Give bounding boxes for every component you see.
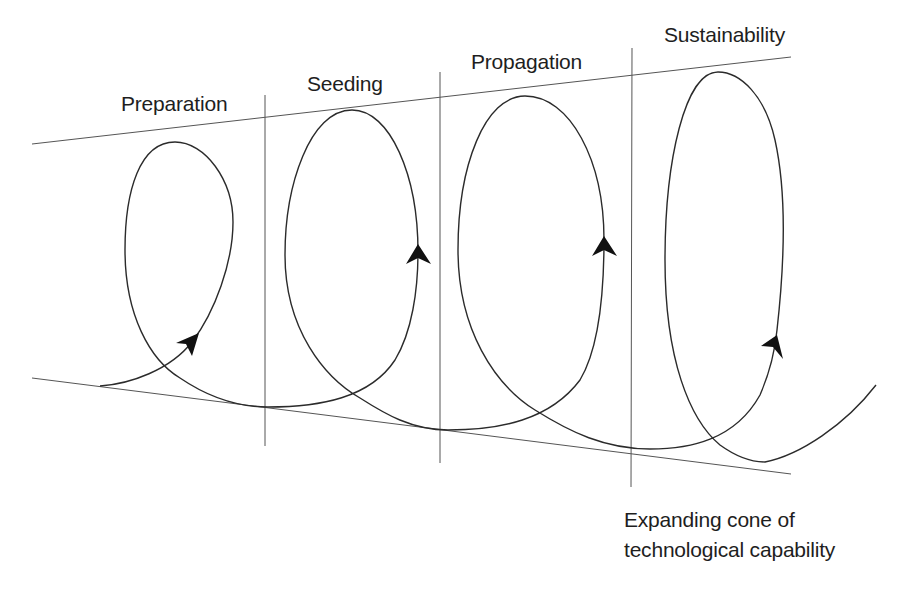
phase-label-seeding: Seeding — [307, 73, 383, 94]
phase-label-sustainability: Sustainability — [664, 24, 785, 45]
caption-line-2: technological capability — [624, 535, 835, 565]
phase-divider-3 — [631, 48, 632, 487]
spiral-path — [100, 72, 876, 462]
phase-label-preparation: Preparation — [121, 93, 227, 114]
cone-bottom-line — [32, 378, 791, 474]
arrowhead-icon — [176, 333, 199, 356]
caption-line-1: Expanding cone of — [624, 505, 835, 535]
arrowhead-icon — [761, 335, 783, 359]
cone-caption: Expanding cone of technological capabili… — [624, 505, 835, 565]
phase-label-propagation: Propagation — [471, 51, 582, 72]
